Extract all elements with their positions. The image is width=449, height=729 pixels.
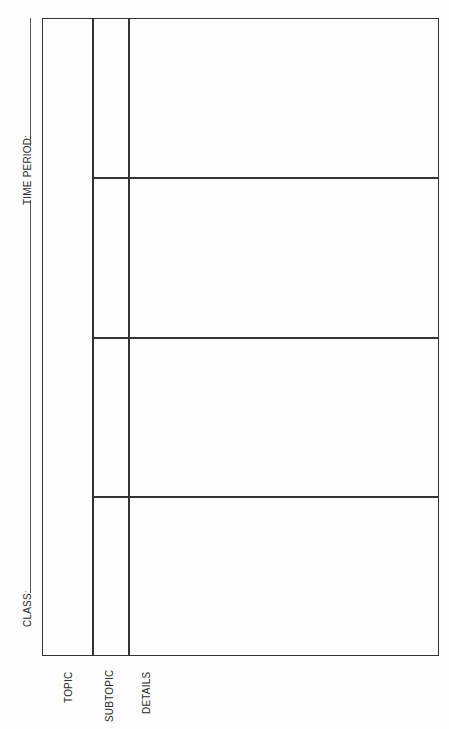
subtopic-cell-2[interactable]	[94, 179, 127, 336]
subtopic-column-label: SUBTOPIC	[104, 669, 116, 722]
details-cell-4[interactable]	[130, 498, 438, 655]
time-period-fill-line[interactable]	[30, 18, 31, 146]
details-cell-3[interactable]	[130, 339, 438, 495]
class-label: CLASS:	[22, 590, 34, 627]
details-cell-1[interactable]	[130, 20, 438, 176]
details-cell-2[interactable]	[130, 179, 438, 336]
subtopic-cell-4[interactable]	[94, 498, 127, 655]
topic-cell[interactable]	[44, 20, 91, 655]
details-column-label: DETAILS	[141, 672, 153, 714]
time-period-label: TIME PERIOD:	[22, 135, 34, 205]
subtopic-cell-3[interactable]	[94, 339, 127, 495]
subtopic-cell-1[interactable]	[94, 20, 127, 176]
class-fill-line[interactable]	[30, 200, 31, 593]
topic-column-label: TOPIC	[63, 672, 75, 703]
